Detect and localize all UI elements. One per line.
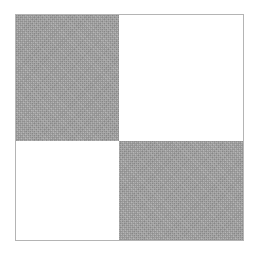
quadrant-bottom-left — [15, 141, 119, 241]
image-canvas — [0, 0, 258, 256]
quadrant-top-left — [15, 14, 119, 141]
outline-top-edge — [15, 14, 244, 15]
outline-right-edge — [243, 14, 244, 241]
checkerboard-figure — [15, 14, 244, 241]
quadrant-top-right — [119, 14, 244, 141]
quadrant-bottom-right — [119, 141, 244, 241]
outline-left-edge — [15, 14, 16, 241]
outline-bottom-edge — [15, 240, 244, 241]
